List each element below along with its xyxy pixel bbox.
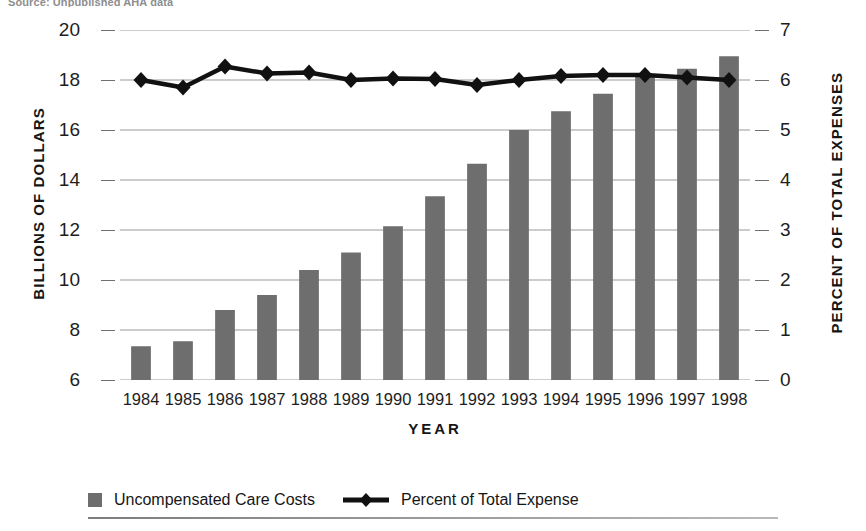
- marker-1987: [260, 66, 275, 82]
- bar-1989: [341, 253, 361, 381]
- bar-1991: [425, 196, 445, 380]
- y-right-tick-6: 6: [780, 70, 820, 89]
- y-left-tick-18: 18: [40, 70, 80, 89]
- legend-line-label: Percent of Total Expense: [401, 491, 579, 509]
- y-left-tick-mark-14: [101, 180, 115, 181]
- chart-legend: Uncompensated Care Costs Percent of Tota…: [88, 488, 778, 514]
- legend-item-bars[interactable]: Uncompensated Care Costs: [88, 488, 315, 512]
- y-left-tick-8: 8: [40, 320, 80, 339]
- y-right-tick-mark-2: [755, 280, 769, 281]
- chart-figure: BILLIONS OF DOLLARS PERCENT OF TOTAL EXP…: [0, 0, 866, 531]
- bar-1987: [257, 295, 277, 380]
- y-left-tick-mark-8: [101, 330, 115, 331]
- x-tick-1994: 1994: [540, 390, 582, 409]
- x-tick-1988: 1988: [288, 390, 330, 409]
- x-tick-1986: 1986: [204, 390, 246, 409]
- legend-line-diamond-icon: [343, 493, 389, 507]
- legend-item-line[interactable]: Percent of Total Expense: [343, 488, 579, 512]
- plot-area: [120, 30, 750, 380]
- bar-1998: [719, 56, 739, 380]
- marker-1993: [512, 72, 527, 88]
- marker-1991: [428, 71, 443, 87]
- bar-1986: [215, 310, 235, 380]
- y-left-tick-mark-18: [101, 80, 115, 81]
- y-left-tick-mark-12: [101, 230, 115, 231]
- bar-1997: [677, 69, 697, 380]
- legend-bar-swatch-icon: [88, 493, 102, 507]
- x-tick-1990: 1990: [372, 390, 414, 409]
- bar-1990: [383, 226, 403, 380]
- y-right-tick-mark-3: [755, 230, 769, 231]
- y-right-tick-3: 3: [780, 220, 820, 239]
- data-layer: [120, 30, 750, 380]
- y-right-tick-mark-0: [755, 380, 769, 381]
- legend-divider: [88, 517, 778, 519]
- y-right-tick-1: 1: [780, 320, 820, 339]
- bar-1996: [635, 75, 655, 380]
- y-right-tick-mark-7: [755, 30, 769, 31]
- y-right-tick-mark-1: [755, 330, 769, 331]
- bar-1993: [509, 130, 529, 380]
- marker-1990: [386, 71, 401, 87]
- bar-1984: [131, 346, 151, 380]
- y-left-tick-mark-10: [101, 280, 115, 281]
- y-left-tick-16: 16: [40, 120, 80, 139]
- y-right-tick-0: 0: [780, 370, 820, 389]
- y-right-tick-7: 7: [780, 20, 820, 39]
- x-tick-1984: 1984: [120, 390, 162, 409]
- y-right-tick-mark-6: [755, 80, 769, 81]
- marker-1985: [176, 80, 191, 96]
- y-left-tick-20: 20: [40, 20, 80, 39]
- x-tick-1985: 1985: [162, 390, 204, 409]
- bar-1988: [299, 270, 319, 380]
- x-tick-1996: 1996: [624, 390, 666, 409]
- y-axis-right-title: PERCENT OF TOTAL EXPENSES: [828, 74, 845, 334]
- legend-bar-label: Uncompensated Care Costs: [114, 491, 315, 509]
- y-right-tick-mark-5: [755, 130, 769, 131]
- y-left-tick-mark-6: [101, 380, 115, 381]
- marker-1986: [218, 59, 233, 75]
- y-right-tick-2: 2: [780, 270, 820, 289]
- x-tick-1992: 1992: [456, 390, 498, 409]
- y-left-tick-10: 10: [40, 270, 80, 289]
- bar-1995: [593, 94, 613, 380]
- bar-1985: [173, 341, 193, 380]
- x-tick-1991: 1991: [414, 390, 456, 409]
- y-left-tick-mark-20: [101, 30, 115, 31]
- y-left-tick-mark-16: [101, 130, 115, 131]
- y-left-tick-12: 12: [40, 220, 80, 239]
- y-left-tick-6: 6: [40, 370, 80, 389]
- marker-1984: [134, 72, 149, 88]
- x-tick-1989: 1989: [330, 390, 372, 409]
- marker-1989: [344, 72, 359, 88]
- marker-1988: [302, 65, 317, 81]
- y-right-tick-mark-4: [755, 180, 769, 181]
- marker-1995: [596, 67, 611, 83]
- x-axis-title: YEAR: [120, 420, 750, 437]
- bar-1992: [467, 164, 487, 380]
- x-tick-1987: 1987: [246, 390, 288, 409]
- y-right-tick-5: 5: [780, 120, 820, 139]
- x-tick-1997: 1997: [666, 390, 708, 409]
- x-tick-1998: 1998: [708, 390, 750, 409]
- bar-1994: [551, 111, 571, 380]
- marker-1994: [554, 68, 569, 84]
- x-tick-1993: 1993: [498, 390, 540, 409]
- y-right-tick-4: 4: [780, 170, 820, 189]
- x-tick-1995: 1995: [582, 390, 624, 409]
- y-left-tick-14: 14: [40, 170, 80, 189]
- marker-1992: [470, 77, 485, 93]
- y-axis-left-title: BILLIONS OF DOLLARS: [30, 74, 47, 334]
